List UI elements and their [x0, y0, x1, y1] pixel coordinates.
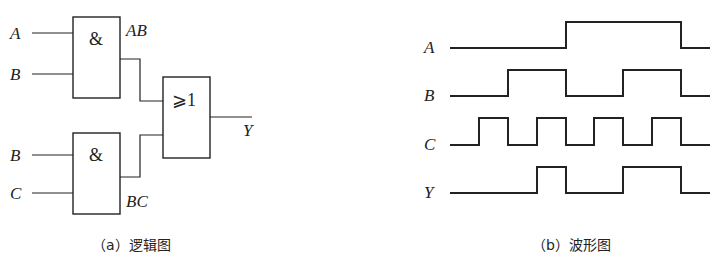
ab-label: AB — [125, 21, 147, 40]
input-c-label: C — [10, 184, 22, 203]
bc-label: BC — [126, 192, 148, 211]
waveform-c — [450, 118, 710, 145]
input-b-label: B — [10, 65, 21, 84]
or-gate-symbol: ⩾1 — [172, 90, 196, 110]
signal-b-label: B — [424, 86, 435, 105]
waveform-y — [450, 167, 710, 193]
and-gate-2-symbol: & — [89, 145, 103, 165]
logic-diagram: A B B C & AB & BC ⩾1 Y （a）逻辑图 — [9, 17, 254, 253]
signal-y-label: Y — [424, 183, 435, 202]
wire-bc — [120, 135, 163, 177]
wire-ab — [120, 59, 163, 101]
waveform-b — [450, 70, 710, 96]
signal-c-label: C — [424, 135, 436, 154]
and-gate-1-symbol: & — [89, 29, 103, 49]
waveform-diagram: A B C Y （b）波形图 — [423, 22, 710, 253]
figure: A B B C & AB & BC ⩾1 Y （a）逻辑图 A B C Y （b… — [0, 0, 721, 270]
input-b2-label: B — [10, 146, 21, 165]
waveform-a — [450, 22, 710, 48]
input-a-label: A — [9, 24, 21, 43]
caption-a: （a）逻辑图 — [92, 237, 171, 253]
caption-b: （b）波形图 — [532, 237, 611, 253]
output-y-label: Y — [243, 121, 254, 140]
signal-a-label: A — [423, 38, 435, 57]
